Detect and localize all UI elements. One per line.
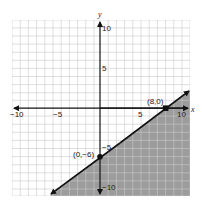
inequality-graph: −10 −5 5 10 10 5 −5 −10 x y (8,0) (0,−6): [0, 0, 202, 205]
tick-y-neg10: −10: [102, 183, 116, 192]
tick-x-neg10: −10: [10, 110, 24, 119]
point-0-neg6: [97, 154, 103, 160]
point-label-0-neg6: (0,−6): [73, 150, 94, 159]
tick-x-10: 10: [177, 110, 186, 119]
tick-y-10: 10: [102, 24, 111, 33]
tick-x-neg5: −5: [53, 110, 63, 119]
point-label-8-0: (8,0): [147, 97, 164, 106]
x-axis-label: x: [190, 105, 195, 114]
point-8-0: [163, 105, 169, 111]
tick-y-5: 5: [102, 64, 107, 73]
y-axis-label: y: [97, 10, 102, 19]
tick-y-neg5: −5: [102, 143, 112, 152]
tick-x-5: 5: [138, 110, 143, 119]
